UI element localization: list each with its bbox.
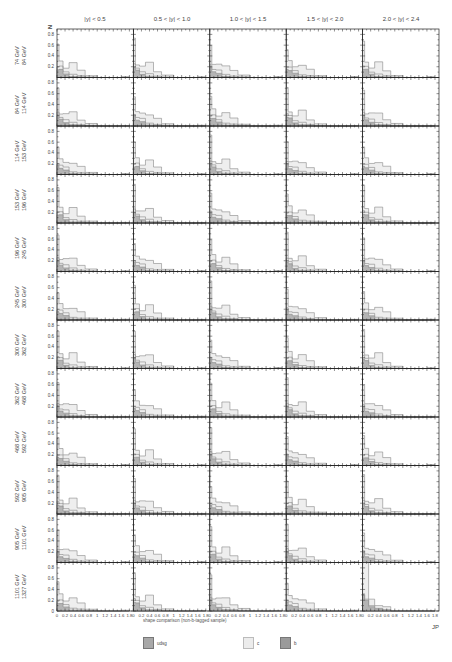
y-tick-label: 0.8 bbox=[48, 32, 55, 37]
y-tick-label: 0.6 bbox=[48, 479, 55, 484]
y-tick-label: 0.6 bbox=[48, 285, 55, 290]
histogram-panel bbox=[210, 514, 286, 563]
histogram-panel bbox=[133, 29, 209, 78]
y-tick-label: 0.4 bbox=[48, 102, 55, 107]
x-tick-label: 0.2 bbox=[368, 613, 375, 618]
x-tick-label: 1.6 bbox=[271, 613, 278, 618]
histogram-panel bbox=[210, 175, 286, 224]
histogram-panel bbox=[133, 563, 209, 612]
legend-item-b: b bbox=[280, 637, 297, 649]
y-tick-label: 0.4 bbox=[48, 441, 55, 446]
y-tick-label: 0.2 bbox=[48, 452, 55, 457]
y-tick-label: 0.8 bbox=[48, 226, 55, 231]
histogram-panel bbox=[210, 272, 286, 321]
legend-swatch-b bbox=[280, 637, 291, 649]
histogram-panel bbox=[57, 175, 133, 224]
y-tick-label: 0.2 bbox=[48, 210, 55, 215]
histogram-panel bbox=[133, 514, 209, 563]
x-tick-label: 0.6 bbox=[307, 613, 314, 618]
y-tick-label: 0.4 bbox=[48, 587, 55, 592]
x-tick-label: 1.6 bbox=[348, 613, 355, 618]
y-tick-label: 0.4 bbox=[48, 538, 55, 543]
legend-item-udsg: udsg bbox=[143, 637, 167, 649]
y-tick-label: 0.4 bbox=[48, 247, 55, 252]
histogram-panel bbox=[286, 369, 362, 418]
histogram-panel bbox=[57, 320, 133, 369]
x-tick-label: 1.2 bbox=[255, 613, 262, 618]
x-tick-label: 0.4 bbox=[376, 613, 383, 618]
y-tick-label: 0 bbox=[51, 609, 54, 614]
histogram-panel bbox=[286, 29, 362, 78]
y-tick-label: 0.6 bbox=[48, 528, 55, 533]
histogram-panel bbox=[286, 466, 362, 515]
y-tick-label: 0.2 bbox=[48, 404, 55, 409]
legend-swatch-c bbox=[243, 637, 254, 649]
x-tick-label: 0.8 bbox=[86, 613, 93, 618]
x-tick-label: 0.8 bbox=[392, 613, 399, 618]
histogram-panel bbox=[57, 272, 133, 321]
x-axis-title: shape comparison (non-b-tagged sample) bbox=[143, 618, 227, 623]
x-tick-label: 1.2 bbox=[408, 613, 415, 618]
histogram-panel bbox=[210, 369, 286, 418]
y-tick-label: 0.4 bbox=[48, 344, 55, 349]
x-tick-label: 1 bbox=[249, 613, 252, 618]
x-tick-label: 0.6 bbox=[384, 613, 391, 618]
y-tick-label: 0.6 bbox=[48, 334, 55, 339]
x-tick-label: 1.4 bbox=[110, 613, 117, 618]
histogram-panel bbox=[363, 320, 439, 369]
x-tick-label: 1 bbox=[402, 613, 405, 618]
x-tick-label: 1 bbox=[325, 613, 328, 618]
y-tick-label: 0.8 bbox=[48, 468, 55, 473]
histogram-panel bbox=[133, 223, 209, 272]
histogram-panel bbox=[363, 417, 439, 466]
y-tick-label: 0.6 bbox=[48, 576, 55, 581]
histogram-panel bbox=[57, 78, 133, 127]
y-tick-label: 0.2 bbox=[48, 598, 55, 603]
y-tick-label: 0.6 bbox=[48, 382, 55, 387]
histogram-panel bbox=[57, 126, 133, 175]
y-tick-label: 0.6 bbox=[48, 237, 55, 242]
histogram-grid: 0.20.40.60.80.20.40.60.80.20.40.60.80.20… bbox=[0, 0, 452, 640]
y-tick-label: 0.8 bbox=[48, 177, 55, 182]
y-tick-label: 0.6 bbox=[48, 43, 55, 48]
y-tick-label: 0.2 bbox=[48, 64, 55, 69]
y-tick-label: 0.4 bbox=[48, 393, 55, 398]
histogram-panel bbox=[363, 466, 439, 515]
y-tick-label: 0.6 bbox=[48, 91, 55, 96]
y-tick-label: 0.2 bbox=[48, 258, 55, 263]
histogram-panel bbox=[286, 126, 362, 175]
y-tick-label: 0.2 bbox=[48, 307, 55, 312]
x-tick-label: 0.2 bbox=[291, 613, 298, 618]
histogram-panel bbox=[210, 466, 286, 515]
x-tick-label: 1.6 bbox=[118, 613, 125, 618]
x-tick-label: 1.4 bbox=[340, 613, 347, 618]
y-tick-label: 0.4 bbox=[48, 296, 55, 301]
histogram-panel bbox=[133, 369, 209, 418]
y-tick-label: 0.4 bbox=[48, 199, 55, 204]
x-tick-label: 0.8 bbox=[239, 613, 246, 618]
histogram-panel bbox=[286, 272, 362, 321]
legend-item-c: c bbox=[243, 637, 259, 649]
y-tick-label: 0.8 bbox=[48, 420, 55, 425]
histogram-panel bbox=[210, 320, 286, 369]
x-tick-label: 0 bbox=[56, 613, 59, 618]
histogram-panel bbox=[57, 466, 133, 515]
x-tick-label: 0.4 bbox=[299, 613, 306, 618]
histogram-panel bbox=[57, 563, 133, 612]
x-tick-label: 0.4 bbox=[70, 613, 77, 618]
histogram-panel bbox=[286, 175, 362, 224]
histogram-panel bbox=[363, 369, 439, 418]
y-tick-label: 0.2 bbox=[48, 501, 55, 506]
histogram-panel bbox=[210, 417, 286, 466]
x-tick-label: 1.2 bbox=[102, 613, 109, 618]
x-tick-label: 1.4 bbox=[263, 613, 270, 618]
histogram-panel bbox=[133, 320, 209, 369]
y-tick-label: 0.2 bbox=[48, 355, 55, 360]
histogram-panel bbox=[133, 272, 209, 321]
histogram-panel bbox=[210, 223, 286, 272]
y-tick-label: 0.4 bbox=[48, 53, 55, 58]
histogram-panel bbox=[363, 514, 439, 563]
x-tick-label: 0.2 bbox=[62, 613, 69, 618]
legend-swatch-udsg bbox=[143, 637, 154, 649]
y-tick-label: 0.2 bbox=[48, 113, 55, 118]
